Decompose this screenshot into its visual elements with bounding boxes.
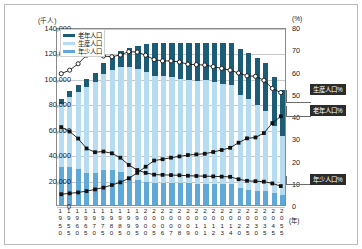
working-rate-marker xyxy=(177,60,181,64)
elderly-rate-marker xyxy=(245,136,249,140)
chart-figure: (千人) (%) 020,00040,00060,00080,000100,00… xyxy=(0,0,362,249)
right-axis-tick-label: 30 xyxy=(292,135,300,144)
working-rate-marker xyxy=(194,63,198,67)
youth-rate-marker xyxy=(110,151,114,155)
left-axis-tick-label: 80,000 xyxy=(49,100,71,109)
working-rate-marker xyxy=(110,55,114,59)
working-rate-marker xyxy=(279,91,283,95)
youth-rate-marker xyxy=(85,147,89,151)
elderly-rate-marker xyxy=(110,183,114,187)
right-axis-caption: (%) xyxy=(292,15,302,22)
working-rate-marker xyxy=(186,62,190,66)
working-rate-marker xyxy=(144,53,148,57)
left-axis-tick-label: 100,000 xyxy=(45,74,71,83)
working-rate-marker xyxy=(270,86,274,90)
working-rate-line xyxy=(61,52,281,93)
working-rate-marker xyxy=(228,68,232,72)
youth-rate-marker xyxy=(262,180,266,184)
elderly-rate-marker xyxy=(254,136,258,140)
youth-rate-marker xyxy=(118,156,122,160)
elderly-rate-marker xyxy=(262,131,266,135)
youth-rate-marker xyxy=(169,173,173,177)
youth-rate-marker xyxy=(203,174,207,178)
youth-rate-marker xyxy=(152,173,156,177)
x-axis-tick-label: 2055 xyxy=(277,207,286,236)
youth-rate-marker xyxy=(279,184,283,188)
youth-rate-marker xyxy=(245,179,249,183)
callout-leader-youth xyxy=(286,176,311,185)
elderly-rate-marker xyxy=(102,186,106,190)
working-rate-marker xyxy=(262,78,266,82)
legend-swatch-youth xyxy=(63,50,75,53)
elderly-rate-marker xyxy=(237,141,241,145)
elderly-rate-marker xyxy=(211,150,215,154)
callout-leader-elderly xyxy=(286,106,311,117)
elderly-rate-marker xyxy=(279,114,283,118)
elderly-rate-marker xyxy=(178,155,182,159)
elderly-rate-marker xyxy=(118,180,122,184)
working-rate-marker xyxy=(245,74,249,78)
youth-rate-marker xyxy=(186,174,190,178)
elderly-rate-marker xyxy=(228,146,232,150)
callout-youth-rate: 年少人口% xyxy=(310,174,346,185)
youth-rate-marker xyxy=(144,171,148,175)
working-rate-marker xyxy=(236,71,240,75)
elderly-rate-marker xyxy=(203,152,207,156)
legend-label-youth: 年少人口 xyxy=(78,47,102,56)
callout-elderly-rate: 老年人口% xyxy=(310,105,346,116)
elderly-rate-marker xyxy=(59,192,63,196)
elderly-rate-marker xyxy=(161,157,165,161)
legend-swatch-elderly xyxy=(63,34,75,37)
left-axis-tick-label: 40,000 xyxy=(49,151,71,160)
working-rate-marker xyxy=(118,53,122,57)
elderly-rate-marker xyxy=(135,171,139,175)
youth-rate-marker xyxy=(220,175,224,179)
x-axis-unit-label: (年) xyxy=(289,216,299,225)
youth-rate-marker xyxy=(270,182,274,186)
elderly-rate-marker xyxy=(169,156,173,160)
chart-legend: 老年人口 生産人口 年少人口 xyxy=(60,29,105,57)
elderly-rate-marker xyxy=(76,191,80,195)
working-rate-marker xyxy=(76,62,80,66)
working-rate-marker xyxy=(169,59,173,63)
legend-swatch-working xyxy=(63,42,75,45)
working-rate-marker xyxy=(253,74,257,78)
youth-rate-marker xyxy=(194,174,198,178)
left-axis-tick-label: 20,000 xyxy=(49,176,71,185)
working-rate-marker xyxy=(127,50,131,54)
elderly-rate-marker xyxy=(127,177,131,181)
right-axis-tick-label: 0 xyxy=(292,202,296,211)
right-axis-tick-label: 80 xyxy=(292,24,300,33)
elderly-rate-marker xyxy=(186,153,190,157)
working-rate-marker xyxy=(68,68,72,72)
working-rate-marker xyxy=(203,63,207,67)
youth-rate-marker xyxy=(93,150,97,154)
youth-rate-marker xyxy=(254,179,258,183)
youth-rate-marker xyxy=(127,163,131,167)
youth-rate-marker xyxy=(76,137,80,141)
youth-rate-marker xyxy=(161,173,165,177)
elderly-rate-marker xyxy=(220,148,224,152)
callout-leader-working xyxy=(286,90,311,103)
youth-rate-marker xyxy=(102,150,106,154)
youth-rate-marker xyxy=(237,177,241,181)
youth-rate-marker xyxy=(178,173,182,177)
elderly-rate-marker xyxy=(270,121,274,125)
left-axis-tick-label: 60,000 xyxy=(49,125,71,134)
elderly-rate-marker xyxy=(93,187,97,191)
elderly-rate-marker xyxy=(85,189,89,193)
right-axis-tick-label: 60 xyxy=(292,68,300,77)
working-rate-marker xyxy=(220,66,224,70)
working-rate-marker xyxy=(152,58,156,62)
elderly-rate-marker xyxy=(194,153,198,157)
elderly-rate-marker xyxy=(144,165,148,169)
elderly-rate-marker xyxy=(152,159,156,163)
right-axis-tick-label: 20 xyxy=(292,157,300,166)
x-axis-ticks: 1950195519601965197019751980198519901995… xyxy=(56,207,286,245)
youth-rate-marker xyxy=(228,175,232,179)
elderly-rate-marker xyxy=(68,191,72,195)
callout-working-rate: 生産人口% xyxy=(310,84,346,95)
youth-rate-marker xyxy=(211,175,215,179)
working-rate-marker xyxy=(160,59,164,63)
legend-item-youth: 年少人口 xyxy=(63,47,102,55)
